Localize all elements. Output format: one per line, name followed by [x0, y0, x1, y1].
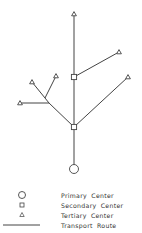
transport-route — [45, 76, 56, 98]
legend-primary-circle-icon — [19, 192, 26, 199]
legend-tertiary-triangle-icon — [20, 213, 24, 217]
legend-label-tertiary-center: Tertiary Center — [60, 212, 114, 220]
secondary-center-square-icon — [71, 74, 76, 79]
tertiary-center-triangle-icon — [18, 101, 23, 105]
legend-label-transport-route: Transport Route — [60, 222, 116, 230]
tertiary-center-triangle-icon — [126, 75, 131, 79]
tertiary-center-triangle-icon — [117, 50, 122, 54]
primary-center-circle-icon — [70, 165, 79, 174]
legend: Primary Center Secondary Center Tertiary… — [3, 192, 124, 230]
transport-route — [49, 103, 74, 127]
legend-secondary-square-icon — [20, 203, 24, 207]
legend-label-primary-center: Primary Center — [61, 192, 114, 200]
transport-hierarchy-diagram: Primary Center Secondary Center Tertiary… — [0, 0, 142, 233]
tertiary-center-triangle-icon — [30, 80, 35, 84]
legend-label-secondary-center: Secondary Center — [61, 202, 124, 210]
secondary-center-square-icon — [71, 124, 76, 129]
transport-route — [74, 77, 128, 127]
tertiary-center-triangle-icon — [72, 12, 77, 16]
transport-routes — [20, 14, 128, 169]
tertiary-center-triangle-icon — [54, 74, 59, 78]
transport-route — [74, 52, 119, 77]
transport-route — [32, 82, 45, 98]
transport-route — [45, 98, 49, 103]
